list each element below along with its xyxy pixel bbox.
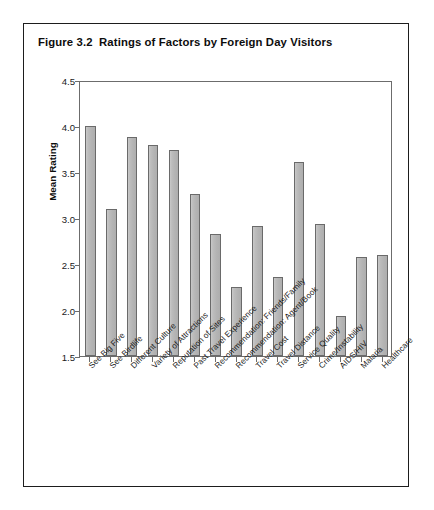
- y-axis-tick-label: 1.5: [62, 352, 75, 363]
- bar: [377, 255, 387, 356]
- y-axis-tick-mark: [75, 219, 80, 220]
- chart-axes-box: [79, 81, 392, 357]
- chart-plot-area: Mean Rating 4.54.03.53.02.52.01.5 See Bi…: [24, 24, 410, 488]
- bar: [294, 162, 304, 356]
- y-axis-tick-label: 4.5: [62, 76, 75, 87]
- y-axis-tick-label: 2.0: [62, 306, 75, 317]
- y-axis-tick-labels: 4.54.03.53.02.52.01.5: [46, 81, 75, 357]
- bar: [127, 137, 137, 356]
- bar: [148, 145, 158, 356]
- y-axis-tick-mark: [75, 127, 80, 128]
- y-axis-tick-label: 4.0: [62, 122, 75, 133]
- bar: [85, 126, 95, 356]
- y-axis-tick-mark: [75, 265, 80, 266]
- y-axis-tick-label: 3.0: [62, 214, 75, 225]
- figure-container: Figure 3.2 Ratings of Factors by Foreign…: [23, 23, 409, 487]
- y-axis-tick-mark: [75, 173, 80, 174]
- y-axis-tick-label: 2.5: [62, 260, 75, 271]
- y-axis-tick-label: 3.5: [62, 168, 75, 179]
- y-axis-tick-mark: [75, 311, 80, 312]
- y-axis-tick-mark: [75, 81, 80, 82]
- y-axis-tick-mark: [75, 357, 80, 358]
- bar: [106, 209, 116, 356]
